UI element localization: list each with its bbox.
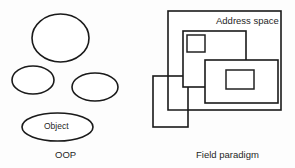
rect-field-inner-2	[226, 70, 254, 89]
ellipse-middle-left	[12, 66, 54, 94]
object-label: Object	[44, 122, 69, 131]
rect-field-inner-1	[187, 35, 205, 52]
field-paradigm-caption: Field paradigm	[196, 150, 259, 160]
figure-root: Object OOP Address space Field paradigm	[0, 0, 295, 168]
ellipse-top	[32, 14, 89, 62]
oop-caption: OOP	[55, 150, 76, 160]
address-space-label: Address space	[216, 16, 279, 26]
field-paradigm-panel-shapes	[153, 11, 281, 127]
ellipse-middle-right	[72, 73, 118, 101]
